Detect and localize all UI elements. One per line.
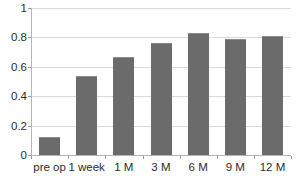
bar-pre-op: [39, 137, 60, 155]
bar-3-m: [151, 43, 172, 156]
y-tick-label-1: 1: [0, 3, 27, 15]
x-tick-label-3-m: 3 M: [142, 161, 179, 174]
x-tick-label-1-m: 1 M: [105, 161, 142, 174]
x-tick-mark: [217, 156, 218, 159]
y-tick-label-0.8: 0.8: [0, 32, 27, 44]
x-tick-mark: [31, 156, 32, 159]
bar-chart: 1 0.8 0.6 0.4 0.2 0 pre op 1 week 1 M 3 …: [0, 0, 297, 180]
y-tick-label-0.6: 0.6: [0, 62, 27, 74]
x-tick-label-9-m: 9 M: [217, 161, 254, 174]
x-tick-label-6-m: 6 M: [180, 161, 217, 174]
x-tick-mark: [105, 156, 106, 159]
x-labels-layer: pre op 1 week 1 M 3 M 6 M 9 M 12 M: [31, 161, 291, 177]
y-tick-label-0: 0: [0, 150, 27, 162]
bar-1-week: [76, 76, 97, 155]
x-tick-label-1-week: 1 week: [68, 161, 105, 174]
x-tick-mark: [291, 156, 292, 159]
bar-6-m: [188, 33, 209, 155]
x-tick-mark: [254, 156, 255, 159]
x-tick-mark: [143, 156, 144, 159]
bar-1-m: [113, 57, 134, 155]
x-tick-mark: [180, 156, 181, 159]
bar-9-m: [225, 39, 246, 155]
bars-layer: [31, 8, 291, 155]
y-tick-label-0.4: 0.4: [0, 91, 27, 103]
x-tick-mark: [68, 156, 69, 159]
x-tick-label-12-m: 12 M: [254, 161, 291, 174]
bar-12-m: [262, 36, 283, 155]
x-tick-label-pre-op: pre op: [31, 161, 68, 174]
y-tick-label-0.2: 0.2: [0, 121, 27, 133]
x-axis-line: [31, 155, 291, 156]
